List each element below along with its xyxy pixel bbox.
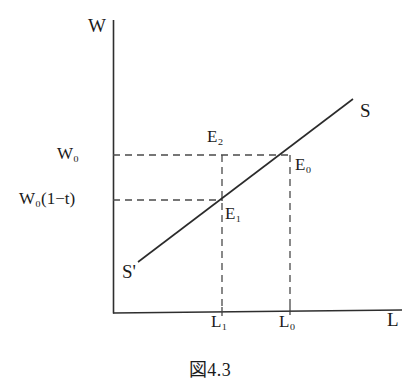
labor-supply-curve xyxy=(138,99,353,262)
point-label-e0: E₀ xyxy=(295,156,311,173)
x-axis-label: L xyxy=(387,310,399,329)
x-tick-label-l1: L₁ xyxy=(211,313,227,330)
y-tick-label-w0-net: W₀(1−t) xyxy=(19,190,75,207)
curve-label-s: S xyxy=(360,101,371,120)
figure-container: W L W₀ W₀(1−t) L₁ L₀ S S' E₀ E₁ E₂ 図4.3 xyxy=(0,0,420,389)
x-tick-label-l0: L₀ xyxy=(279,313,295,330)
point-label-e2: E₂ xyxy=(207,128,223,145)
curve-label-s-prime: S' xyxy=(122,262,136,281)
point-label-e1: E₁ xyxy=(225,205,241,222)
x-axis xyxy=(113,310,402,313)
y-axis-label: W xyxy=(88,16,106,35)
y-tick-label-w0: W₀ xyxy=(57,145,79,162)
figure-caption: 図4.3 xyxy=(0,355,420,381)
